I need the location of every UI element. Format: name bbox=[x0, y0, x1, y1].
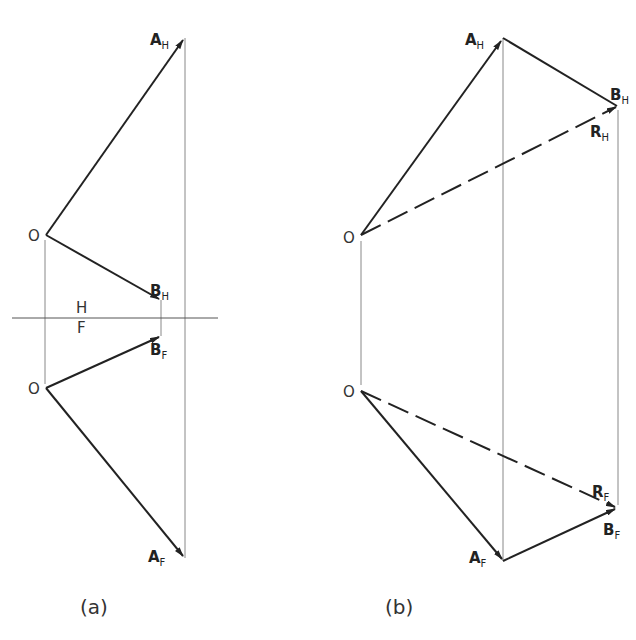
label-a-h: AH bbox=[465, 31, 484, 51]
label-o-top: O bbox=[343, 229, 355, 247]
label-b-f: BF bbox=[150, 341, 167, 361]
label-plane-h: H bbox=[76, 299, 87, 317]
vector-diagram: O O AH BH BF AF H F (a) O O AH BH RH RF … bbox=[0, 0, 636, 640]
vector-ob-h bbox=[46, 235, 159, 299]
label-b-h: BH bbox=[150, 282, 169, 302]
label-a-h: AH bbox=[150, 31, 169, 51]
panel-b: O O AH BH RH RF BF AF (b) bbox=[343, 31, 629, 619]
label-a-f: AF bbox=[148, 548, 166, 568]
label-a-f: AF bbox=[469, 549, 487, 569]
panel-a: O O AH BH BF AF H F (a) bbox=[12, 31, 218, 619]
caption-b: (b) bbox=[385, 595, 413, 619]
vector-oa-h bbox=[46, 40, 183, 235]
vector-oa-h bbox=[361, 41, 501, 235]
caption-a: (a) bbox=[80, 595, 108, 619]
vector-oa-f bbox=[46, 388, 183, 556]
vector-ab-f bbox=[503, 509, 615, 561]
label-o-bottom: O bbox=[28, 380, 40, 398]
label-b-f: BF bbox=[603, 521, 620, 541]
label-o-top: O bbox=[28, 227, 40, 245]
resultant-r-h bbox=[361, 107, 616, 235]
label-plane-f: F bbox=[77, 319, 86, 337]
label-r-h: RH bbox=[590, 123, 609, 143]
resultant-r-f bbox=[361, 391, 615, 507]
vector-ob-f bbox=[46, 337, 159, 388]
vector-oa-f bbox=[361, 391, 502, 559]
vector-ab-h bbox=[503, 38, 617, 106]
label-o-bottom: O bbox=[343, 383, 355, 401]
label-r-f: RF bbox=[592, 483, 610, 503]
label-b-h: BH bbox=[610, 86, 629, 106]
